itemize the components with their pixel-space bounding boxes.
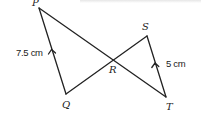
vertex-label-q: Q (62, 99, 70, 110)
parallel-arrow-icon-pq (49, 50, 56, 55)
triangle-diagram: P Q R S T 7.5 cm 5 cm (0, 0, 201, 114)
segment-st (147, 36, 166, 97)
vertex-label-t: T (166, 101, 174, 112)
length-label-st: 5 cm (166, 58, 186, 69)
segment-qs (66, 36, 147, 94)
length-label-pq: 7.5 cm (16, 47, 43, 58)
vertex-label-p: P (31, 0, 39, 8)
vertex-label-r: R (108, 64, 117, 75)
parallel-arrow-icon-st (152, 63, 159, 68)
vertex-label-s: S (142, 21, 149, 32)
